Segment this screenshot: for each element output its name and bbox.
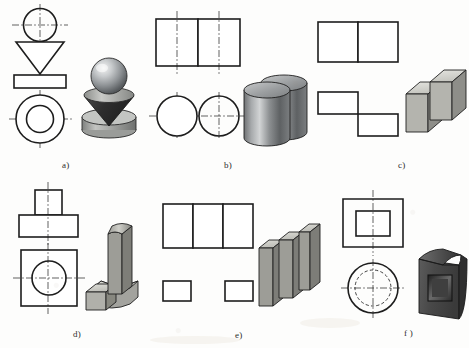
front-square-left	[318, 22, 358, 62]
panel-c-front-view	[318, 22, 398, 62]
cylinder-top-face	[244, 82, 290, 98]
block-front-face	[430, 82, 452, 120]
panel-a-solid	[82, 58, 136, 138]
plate-3	[299, 224, 320, 290]
caption-c: c)	[398, 160, 406, 170]
front-rect-1	[163, 204, 193, 248]
front-triangle	[16, 42, 64, 74]
panel-b-top-view	[149, 92, 247, 140]
panel-e-front-view	[163, 204, 253, 248]
cylinder-left	[244, 82, 290, 146]
upright-side	[122, 226, 132, 294]
figure-sheet: a)	[0, 0, 469, 348]
caption-a: a)	[62, 160, 70, 170]
top-rect-left	[163, 281, 191, 301]
panel-d	[8, 180, 156, 322]
panel-f	[325, 185, 469, 323]
sphere	[91, 58, 127, 94]
top-rect-right	[225, 281, 253, 301]
panel-d-solid	[86, 224, 138, 311]
top-rect-right	[358, 114, 398, 136]
panel-b-solid	[244, 75, 307, 146]
front-lower-rect	[19, 215, 78, 237]
panel-b-front-view	[156, 11, 240, 74]
panel-d-front-view	[19, 182, 78, 246]
panel-e	[155, 196, 320, 324]
panel-f-solid	[419, 249, 467, 319]
front-rect-2	[193, 204, 223, 248]
paper-smudge	[150, 336, 240, 344]
front-rect-3	[223, 204, 253, 248]
caption-e: e)	[235, 330, 243, 340]
caption-f: f )	[404, 328, 413, 338]
upright-front	[108, 232, 122, 294]
caption-b: b)	[224, 160, 232, 170]
block-right	[430, 70, 466, 120]
panel-e-top-view	[163, 281, 253, 301]
panel-a-front-view	[12, 4, 68, 88]
top-outer-circle	[16, 95, 64, 143]
panel-c	[310, 8, 468, 153]
top-circle-left	[157, 96, 197, 136]
panel-a-top-view	[9, 90, 72, 148]
panel-c-top-view	[318, 92, 398, 136]
cavity-depth	[432, 279, 448, 297]
sphere-highlight	[96, 64, 108, 72]
front-rectangle	[14, 75, 66, 88]
front-square-right	[358, 22, 398, 62]
front-upper-rect	[35, 190, 62, 215]
panel-f-top-view	[341, 259, 406, 318]
block-front-face	[406, 94, 428, 132]
top-rect-left	[318, 92, 358, 114]
panel-a	[4, 2, 154, 152]
panel-e-solid	[259, 224, 320, 306]
panel-c-solid	[406, 70, 466, 132]
panel-b	[148, 8, 308, 153]
slab-side-face	[459, 255, 467, 319]
caption-d: d)	[73, 329, 81, 339]
panel-d-top-view	[13, 243, 86, 314]
base-left-front	[86, 292, 106, 310]
panel-f-front-view	[343, 190, 403, 256]
